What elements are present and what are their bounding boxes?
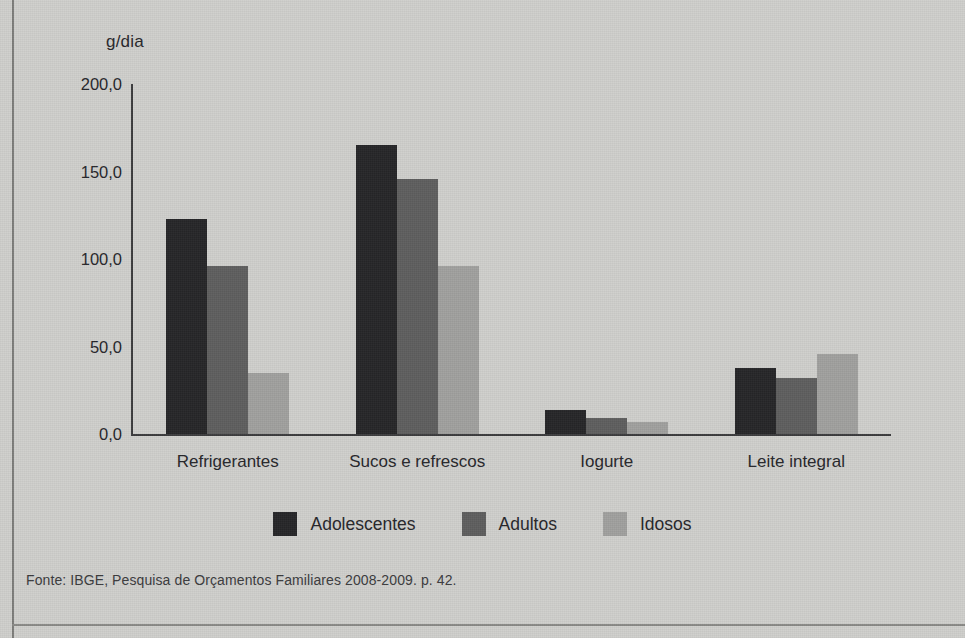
plot-area [133, 84, 891, 434]
legend-swatch-icon [273, 512, 297, 536]
y-axis-tick-label: 150,0 [36, 162, 122, 181]
legend-label: Adolescentes [310, 514, 415, 535]
legend-item: Idosos [603, 512, 692, 536]
legend-item: Adolescentes [273, 512, 415, 536]
bar-adultos-sucos-e-refrescos [397, 179, 438, 435]
y-axis-tick-label: 200,0 [36, 75, 122, 94]
y-axis-tick-label: 100,0 [36, 250, 122, 269]
x-axis-tick-label: Refrigerantes [177, 452, 279, 472]
x-axis-tick-label: Iogurte [580, 452, 633, 472]
chart-page: g/dia 0,050,0100,0150,0200,0 Refrigerant… [0, 0, 965, 638]
y-axis-tick-labels: 0,050,0100,0150,0200,0 [30, 0, 122, 500]
legend-label: Idosos [640, 514, 692, 535]
bar-adolescentes-sucos-e-refrescos [356, 145, 397, 434]
bar-group [323, 84, 513, 434]
bar-group [133, 84, 323, 434]
bar-idosos-refrigerantes [248, 373, 289, 434]
bar-adultos-leite-integral [776, 378, 817, 434]
bar-idosos-sucos-e-refrescos [438, 266, 479, 434]
bar-adolescentes-leite-integral [735, 368, 776, 435]
x-axis-tick-label: Leite integral [748, 452, 845, 472]
bar-adultos-refrigerantes [207, 266, 248, 434]
bar-idosos-iogurte [627, 422, 668, 434]
y-axis-tick-label: 0,0 [36, 425, 122, 444]
bar-adolescentes-iogurte [545, 410, 586, 435]
bar-idosos-leite-integral [817, 354, 858, 435]
source-note: Fonte: IBGE, Pesquisa de Orçamentos Fami… [26, 572, 457, 588]
chart-legend: AdolescentesAdultosIdosos [0, 512, 965, 536]
bar-adultos-iogurte [586, 418, 627, 434]
bar-chart: g/dia 0,050,0100,0150,0200,0 Refrigerant… [0, 0, 965, 500]
x-axis-tick-label: Sucos e refrescos [349, 452, 485, 472]
legend-item: Adultos [462, 512, 557, 536]
legend-label: Adultos [499, 514, 557, 535]
x-axis-line [131, 434, 891, 436]
legend-swatch-icon [462, 512, 486, 536]
legend-swatch-icon [603, 512, 627, 536]
bar-adolescentes-refrigerantes [166, 219, 207, 434]
y-axis-tick-label: 50,0 [36, 337, 122, 356]
page-bottom-border [12, 624, 965, 626]
bar-group [512, 84, 702, 434]
bar-group [702, 84, 892, 434]
x-axis-tick-labels: RefrigerantesSucos e refrescosIogurteLei… [133, 452, 891, 482]
